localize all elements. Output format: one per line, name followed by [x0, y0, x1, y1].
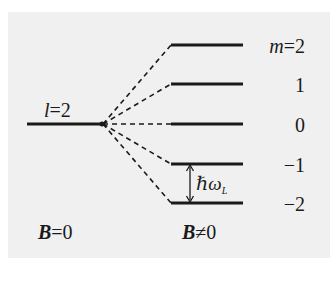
hbar-omega: ℏω	[196, 173, 222, 194]
field-on-value: ≠0	[195, 221, 216, 243]
l-value: =2	[50, 99, 71, 121]
dashed-connectors	[103, 45, 171, 203]
b-field-symbol: B	[38, 221, 51, 243]
field-off-label: B=0	[38, 222, 73, 242]
double-arrow-icon	[187, 165, 194, 202]
field-on-label: B≠0	[182, 222, 216, 242]
m-label-1: 1	[245, 75, 305, 95]
m-label-2: m=2	[245, 36, 305, 56]
field-off-value: =0	[51, 221, 72, 243]
larmor-energy-label: ℏωL	[196, 174, 227, 197]
larmor-subscript: L	[222, 185, 228, 196]
unsplit-level-label: l=2	[44, 100, 71, 120]
b-field-symbol: B	[182, 221, 195, 243]
m-label-0: 0	[245, 115, 305, 135]
m-value: =2	[284, 35, 305, 57]
m-label-minus2: −2	[245, 194, 305, 214]
m-label-minus1: −1	[245, 155, 305, 175]
m-variable: m	[269, 35, 283, 57]
